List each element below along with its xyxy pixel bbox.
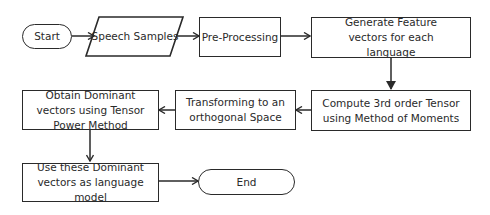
pre-processing-label: Pre-Processing xyxy=(202,30,279,45)
end-node: End xyxy=(198,169,295,195)
compute-tensor-node: Compute 3rd order Tensor using Method of… xyxy=(311,90,471,131)
transform-orthogonal-node: Transforming to an orthogonal Space xyxy=(175,90,296,130)
start-node: Start xyxy=(22,24,72,49)
compute-tensor-label: Compute 3rd order Tensor using Method of… xyxy=(322,96,460,126)
use-dominant-vectors-label: Use these Dominant vectors as language m… xyxy=(27,160,154,205)
generate-feature-vectors-node: Generate Feature vectors for each langua… xyxy=(311,17,471,58)
transform-orthogonal-label: Transforming to an orthogonal Space xyxy=(184,95,287,125)
pre-processing-node: Pre-Processing xyxy=(199,17,281,57)
obtain-dominant-vectors-node: Obtain Dominant vectors using Tensor Pow… xyxy=(22,90,159,130)
obtain-dominant-vectors-label: Obtain Dominant vectors using Tensor Pow… xyxy=(27,88,154,133)
start-label: Start xyxy=(34,29,60,44)
speech-samples-node: Speech Samples xyxy=(88,17,182,56)
generate-feature-vectors-label: Generate Feature vectors for each langua… xyxy=(326,15,456,60)
speech-samples-label: Speech Samples xyxy=(92,29,179,44)
end-label: End xyxy=(237,175,257,190)
use-dominant-vectors-node: Use these Dominant vectors as language m… xyxy=(22,163,159,202)
